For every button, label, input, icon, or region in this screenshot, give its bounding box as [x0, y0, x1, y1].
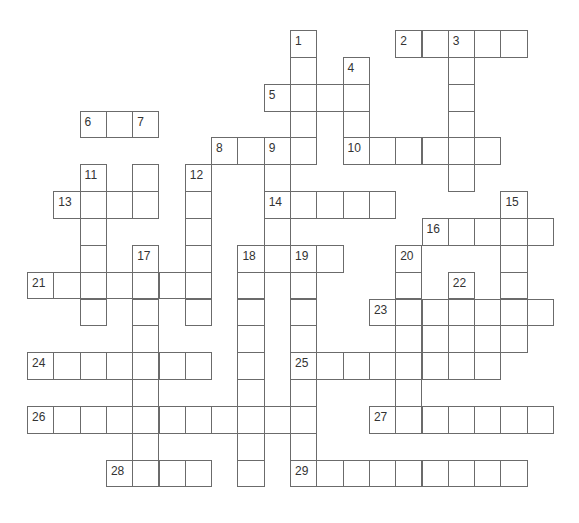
crossword-cell[interactable]: [185, 191, 212, 219]
crossword-cell[interactable]: [290, 272, 317, 300]
crossword-cell[interactable]: [500, 460, 527, 488]
crossword-cell-27[interactable]: 27: [369, 406, 396, 434]
crossword-cell[interactable]: [474, 325, 501, 353]
crossword-cell[interactable]: [132, 352, 159, 380]
crossword-cell[interactable]: [500, 245, 527, 273]
crossword-cell[interactable]: [185, 406, 212, 434]
crossword-cell-14[interactable]: 14: [264, 191, 291, 219]
crossword-cell[interactable]: [395, 325, 422, 353]
crossword-cell-13[interactable]: 13: [53, 191, 80, 219]
crossword-cell[interactable]: [448, 325, 475, 353]
crossword-cell[interactable]: [132, 191, 159, 219]
crossword-cell[interactable]: [290, 433, 317, 461]
crossword-cell[interactable]: [474, 352, 501, 380]
crossword-cell[interactable]: [395, 137, 422, 165]
crossword-cell[interactable]: [132, 460, 159, 488]
crossword-cell[interactable]: [159, 460, 186, 488]
crossword-cell[interactable]: [474, 218, 501, 246]
crossword-cell[interactable]: [527, 299, 554, 327]
crossword-cell[interactable]: [448, 460, 475, 488]
crossword-cell[interactable]: [474, 137, 501, 165]
crossword-cell[interactable]: [395, 379, 422, 407]
crossword-cell[interactable]: [369, 137, 396, 165]
crossword-cell[interactable]: [80, 218, 107, 246]
crossword-cell-28[interactable]: 28: [106, 460, 133, 488]
crossword-cell[interactable]: [500, 218, 527, 246]
crossword-cell[interactable]: [237, 460, 264, 488]
crossword-cell[interactable]: [290, 299, 317, 327]
crossword-cell[interactable]: [343, 352, 370, 380]
crossword-cell[interactable]: [395, 299, 422, 327]
crossword-cell[interactable]: [316, 191, 343, 219]
crossword-cell[interactable]: [422, 325, 449, 353]
crossword-cell[interactable]: [369, 352, 396, 380]
crossword-cell[interactable]: [422, 406, 449, 434]
crossword-cell[interactable]: [264, 406, 291, 434]
crossword-cell[interactable]: [395, 406, 422, 434]
crossword-cell[interactable]: [395, 352, 422, 380]
crossword-cell-18[interactable]: 18: [237, 245, 264, 273]
crossword-cell[interactable]: [106, 191, 133, 219]
crossword-cell[interactable]: [264, 245, 291, 273]
crossword-cell-11[interactable]: 11: [80, 164, 107, 192]
crossword-cell[interactable]: [159, 406, 186, 434]
crossword-cell[interactable]: [448, 84, 475, 112]
crossword-cell[interactable]: [343, 191, 370, 219]
crossword-cell[interactable]: [422, 352, 449, 380]
crossword-cell[interactable]: [343, 111, 370, 139]
crossword-cell[interactable]: [132, 406, 159, 434]
crossword-cell[interactable]: [237, 137, 264, 165]
crossword-cell[interactable]: [500, 325, 527, 353]
crossword-cell[interactable]: [106, 406, 133, 434]
crossword-cell[interactable]: [53, 272, 80, 300]
crossword-cell-1[interactable]: 1: [290, 30, 317, 58]
crossword-cell[interactable]: [448, 111, 475, 139]
crossword-cell[interactable]: [369, 460, 396, 488]
crossword-cell[interactable]: [290, 137, 317, 165]
crossword-cell-19[interactable]: 19: [290, 245, 317, 273]
crossword-cell[interactable]: [343, 460, 370, 488]
crossword-cell[interactable]: [343, 84, 370, 112]
crossword-cell[interactable]: [500, 406, 527, 434]
crossword-cell[interactable]: [80, 191, 107, 219]
crossword-cell[interactable]: [80, 272, 107, 300]
crossword-cell[interactable]: [448, 164, 475, 192]
crossword-cell[interactable]: [474, 406, 501, 434]
crossword-cell-9[interactable]: 9: [264, 137, 291, 165]
crossword-cell[interactable]: [290, 84, 317, 112]
crossword-cell[interactable]: [237, 299, 264, 327]
crossword-cell[interactable]: [527, 218, 554, 246]
crossword-cell-24[interactable]: 24: [27, 352, 54, 380]
crossword-cell[interactable]: [422, 30, 449, 58]
crossword-cell-25[interactable]: 25: [290, 352, 317, 380]
crossword-cell[interactable]: [80, 406, 107, 434]
crossword-cell[interactable]: [316, 84, 343, 112]
crossword-cell-5[interactable]: 5: [264, 84, 291, 112]
crossword-cell[interactable]: [159, 352, 186, 380]
crossword-cell[interactable]: [500, 272, 527, 300]
crossword-cell-15[interactable]: 15: [500, 191, 527, 219]
crossword-cell[interactable]: [448, 352, 475, 380]
crossword-cell-26[interactable]: 26: [27, 406, 54, 434]
crossword-cell[interactable]: [474, 460, 501, 488]
crossword-cell[interactable]: [185, 245, 212, 273]
crossword-cell[interactable]: [290, 57, 317, 85]
crossword-cell-7[interactable]: 7: [132, 111, 159, 139]
crossword-cell[interactable]: [132, 299, 159, 327]
crossword-cell[interactable]: [500, 30, 527, 58]
crossword-cell-10[interactable]: 10: [343, 137, 370, 165]
crossword-cell[interactable]: [422, 460, 449, 488]
crossword-cell[interactable]: [80, 352, 107, 380]
crossword-cell[interactable]: [237, 406, 264, 434]
crossword-cell[interactable]: [395, 272, 422, 300]
crossword-cell[interactable]: [132, 433, 159, 461]
crossword-cell-4[interactable]: 4: [343, 57, 370, 85]
crossword-cell[interactable]: [237, 379, 264, 407]
crossword-cell-2[interactable]: 2: [395, 30, 422, 58]
crossword-cell[interactable]: [448, 137, 475, 165]
crossword-cell[interactable]: [80, 245, 107, 273]
crossword-cell[interactable]: [316, 460, 343, 488]
crossword-cell[interactable]: [237, 272, 264, 300]
crossword-cell-17[interactable]: 17: [132, 245, 159, 273]
crossword-cell[interactable]: [132, 164, 159, 192]
